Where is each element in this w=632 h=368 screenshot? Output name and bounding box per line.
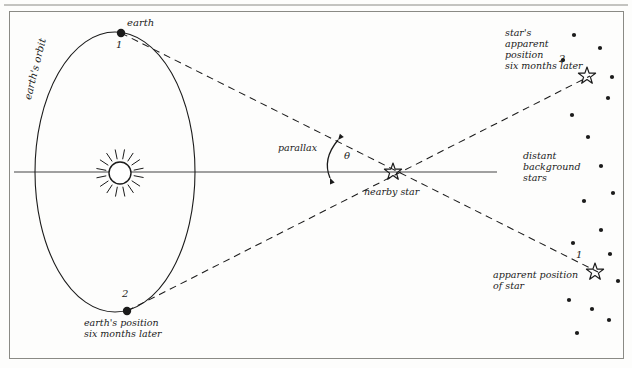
background-star-dot <box>598 46 602 50</box>
sun-ray <box>132 160 140 166</box>
sun-ray <box>96 168 106 170</box>
earth-position-2-dot <box>123 307 131 315</box>
background-star-dot <box>590 307 594 311</box>
background-star-dot <box>571 241 575 245</box>
sun-ray <box>123 187 125 197</box>
sun-ray <box>107 185 113 193</box>
background-star-dot <box>567 298 571 302</box>
sun-ray <box>128 185 134 193</box>
label-stars-apparent-position-six-months-later: star's apparent position six months late… <box>505 28 583 72</box>
parallax-figure: earth 1 earth's orbit 2 earth's position… <box>0 0 632 368</box>
label-earth-marker-2: 2 <box>122 288 128 299</box>
label-parallax: parallax <box>278 143 317 154</box>
background-star-dot <box>575 331 579 335</box>
nearby-star-glyph <box>384 163 401 179</box>
parallax-arrow-head <box>338 134 344 140</box>
background-star-dot <box>586 135 590 139</box>
label-earths-position-six-months-later: earth's position six months later <box>84 318 162 340</box>
label-apparent-marker-2: 2 <box>559 53 565 64</box>
sun-ray <box>132 181 140 187</box>
background-star-dot <box>616 279 620 283</box>
label-apparent-marker-1: 1 <box>576 249 582 260</box>
sun-ray <box>134 176 144 178</box>
sun-ray <box>128 153 134 161</box>
background-star-dot <box>570 113 574 117</box>
label-apparent-position-of-star: apparent position of star <box>493 270 578 292</box>
sun-ray <box>115 149 117 159</box>
parallax-arrow-head <box>330 178 335 185</box>
label-nearby-star: nearby star <box>364 187 419 198</box>
label-earth-marker-1: 1 <box>116 39 122 50</box>
label-earth: earth <box>127 17 154 29</box>
sun-ray <box>100 181 108 187</box>
background-star-dot <box>610 75 614 79</box>
apparent-star-position-1-glyph <box>586 263 603 279</box>
label-theta-angle: θ <box>344 150 350 162</box>
background-star-dot <box>607 318 611 322</box>
background-star-dot <box>599 228 603 232</box>
sun-ray <box>100 160 108 166</box>
sun-ray <box>134 168 144 170</box>
background-star-dot <box>611 191 615 195</box>
label-distant-background-stars: distant background stars <box>523 151 580 184</box>
sun-ray <box>96 176 106 178</box>
sun-ray <box>115 187 117 197</box>
sun-disc <box>109 162 131 184</box>
sun-ray <box>107 153 113 161</box>
background-star-dot <box>599 164 603 168</box>
background-star-dot <box>582 199 586 203</box>
background-star-dot <box>608 252 612 256</box>
earth-position-1-dot <box>117 29 125 37</box>
background-star-dot <box>606 96 610 100</box>
sun-ray <box>123 149 125 159</box>
